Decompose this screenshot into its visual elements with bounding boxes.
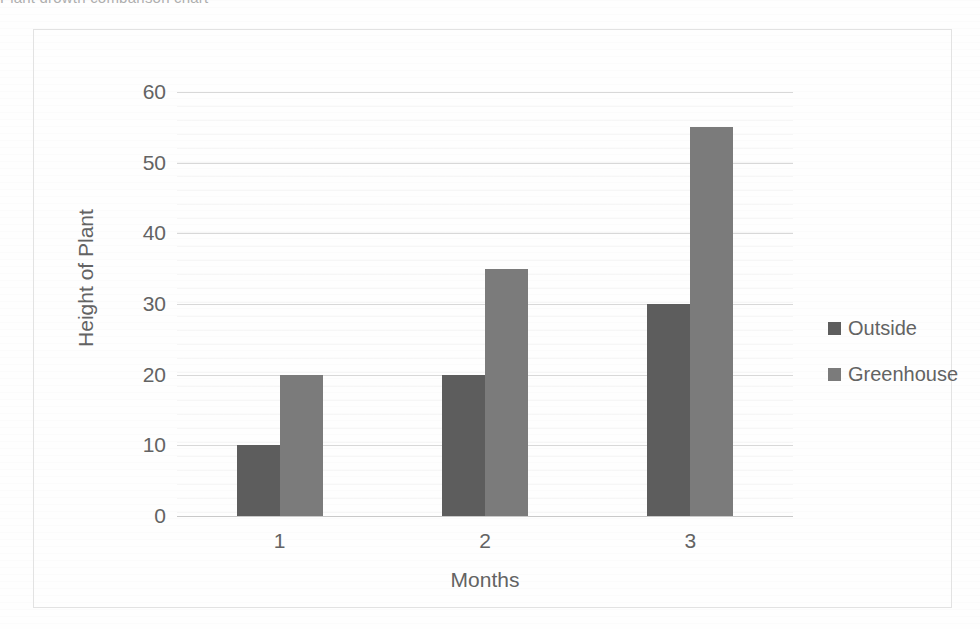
chart-screenshot: Plant growth comparison chart Height of … bbox=[0, 0, 980, 629]
x-axis-tick-labels: 123 bbox=[177, 528, 793, 558]
gridline bbox=[177, 516, 793, 517]
legend-swatch-icon bbox=[828, 368, 841, 381]
y-tick-label: 40 bbox=[114, 222, 166, 243]
x-tick-label: 2 bbox=[382, 528, 587, 554]
y-tick-label: 50 bbox=[114, 152, 166, 173]
chart-frame: Height of Plant 0102030405060 123 Months… bbox=[33, 29, 952, 608]
y-tick-label: 60 bbox=[114, 81, 166, 102]
legend-swatch-icon bbox=[828, 322, 841, 335]
legend-item[interactable]: Greenhouse bbox=[828, 364, 958, 384]
y-tick-label: 20 bbox=[114, 364, 166, 385]
legend-item[interactable]: Outside bbox=[828, 318, 958, 338]
clipped-header-text: Plant growth comparison chart bbox=[0, 0, 980, 3]
y-tick-label: 30 bbox=[114, 293, 166, 314]
x-axis-title: Months bbox=[177, 568, 793, 592]
legend-label: Outside bbox=[848, 318, 917, 338]
y-axis-tick-labels: 0102030405060 bbox=[106, 92, 166, 516]
bar-greenhouse-1 bbox=[280, 375, 323, 516]
y-axis-title: Height of Plant bbox=[74, 178, 98, 378]
bar-greenhouse-2 bbox=[485, 269, 528, 516]
y-tick-label: 0 bbox=[114, 505, 166, 526]
bar-outside-1 bbox=[237, 445, 280, 516]
chart-legend: OutsideGreenhouse bbox=[828, 318, 958, 410]
bars-layer bbox=[177, 92, 793, 516]
bar-outside-2 bbox=[442, 375, 485, 516]
x-tick-label: 1 bbox=[177, 528, 382, 554]
bar-outside-3 bbox=[647, 304, 690, 516]
legend-label: Greenhouse bbox=[848, 364, 958, 384]
plot-area bbox=[177, 92, 793, 516]
bar-greenhouse-3 bbox=[690, 127, 733, 516]
x-tick-label: 3 bbox=[588, 528, 793, 554]
y-tick-label: 10 bbox=[114, 434, 166, 455]
